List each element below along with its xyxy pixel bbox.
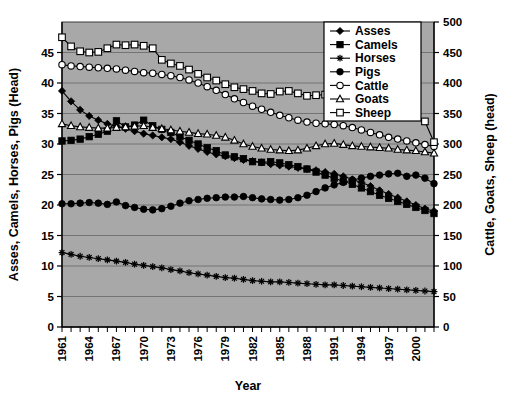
marker-open-circle: [222, 91, 228, 97]
marker-filled-circle: [86, 199, 93, 206]
marker-filled-circle: [122, 202, 129, 209]
marker-open-circle: [277, 112, 283, 118]
marker-filled-square: [195, 141, 201, 147]
y-axis-right-tick-label: 500: [443, 16, 462, 28]
livestock-line-chart: 0510152025303540450501001502002503003504…: [0, 0, 510, 398]
marker-star: [222, 274, 229, 281]
marker-filled-square: [431, 210, 437, 216]
marker-filled-circle: [140, 206, 147, 213]
marker-star: [204, 272, 211, 279]
marker-open-circle: [59, 61, 65, 67]
marker-filled-circle: [68, 200, 75, 207]
x-axis-tick-label: 1964: [83, 335, 95, 361]
marker-star: [422, 288, 429, 295]
marker-star: [122, 259, 129, 266]
marker-open-circle: [140, 69, 146, 75]
marker-filled-circle: [186, 197, 193, 204]
marker-filled-circle: [367, 173, 374, 180]
y-axis-right-tick-label: 250: [443, 169, 462, 181]
marker-open-circle: [358, 127, 364, 133]
marker-star: [95, 255, 102, 262]
marker-filled-circle: [413, 172, 420, 179]
marker-open-circle: [385, 134, 391, 140]
marker-filled-circle: [267, 196, 274, 203]
marker-filled-square: [337, 41, 343, 47]
marker-filled-circle: [240, 193, 247, 200]
marker-star: [113, 258, 120, 265]
marker-open-circle: [413, 140, 419, 146]
marker-filled-square: [186, 137, 192, 143]
marker-open-circle: [322, 121, 328, 127]
marker-open-circle: [395, 136, 401, 142]
legend-item-label: Pigs: [355, 65, 381, 79]
marker-open-square: [77, 48, 84, 55]
marker-filled-circle: [213, 194, 220, 201]
marker-open-square: [213, 77, 220, 84]
marker-filled-circle: [276, 197, 283, 204]
x-axis-tick-label: 2000: [410, 336, 422, 362]
marker-filled-square: [222, 152, 228, 158]
x-axis-tick-label: 1973: [165, 336, 177, 362]
marker-filled-square: [213, 148, 219, 154]
marker-star: [195, 271, 202, 278]
marker-star: [331, 282, 338, 289]
marker-open-circle: [131, 68, 137, 74]
marker-filled-circle: [104, 201, 111, 208]
x-axis-tick-label: 1994: [355, 335, 367, 361]
marker-star: [385, 285, 392, 292]
marker-open-circle: [104, 65, 110, 71]
x-axis-tick-label: 1997: [383, 336, 395, 362]
y-axis-left-tick-label: 20: [41, 199, 54, 211]
marker-filled-circle: [337, 69, 344, 76]
marker-open-circle: [404, 138, 410, 144]
marker-open-circle: [113, 66, 119, 72]
marker-open-square: [222, 81, 229, 88]
marker-open-square: [68, 43, 75, 50]
marker-star: [394, 286, 401, 293]
marker-filled-circle: [431, 180, 438, 187]
marker-filled-circle: [177, 200, 184, 207]
y-axis-left-title: Asses, Camels, Horses, Pigs (Head): [7, 68, 21, 281]
marker-open-square: [431, 139, 438, 146]
legend-item-label: Cattle: [355, 79, 389, 93]
marker-star: [59, 249, 66, 256]
marker-open-square: [267, 91, 274, 98]
marker-filled-circle: [403, 173, 410, 180]
marker-star: [340, 282, 347, 289]
marker-filled-circle: [422, 175, 429, 182]
marker-open-circle: [304, 119, 310, 125]
x-axis-tick-label: 1988: [301, 335, 313, 361]
marker-filled-circle: [113, 199, 120, 206]
marker-filled-circle: [349, 177, 356, 184]
marker-star: [376, 285, 383, 292]
marker-filled-square: [258, 159, 264, 165]
marker-open-square: [422, 118, 429, 125]
x-axis-tick-label: 1979: [219, 336, 231, 362]
y-axis-left-tick-label: 5: [48, 291, 55, 303]
marker-open-circle: [177, 74, 183, 80]
marker-open-square: [159, 57, 166, 64]
marker-open-square: [168, 60, 175, 67]
x-axis-tick-label: 1970: [138, 336, 150, 362]
marker-star: [104, 257, 111, 264]
marker-open-square: [59, 34, 66, 41]
marker-star: [322, 282, 329, 289]
marker-star: [358, 283, 365, 290]
y-axis-right-tick-label: 200: [443, 199, 462, 211]
y-axis-right-tick-label: 150: [443, 230, 462, 242]
y-axis-right-tick-label: 300: [443, 138, 462, 150]
marker-filled-circle: [286, 196, 293, 203]
marker-open-square: [131, 41, 138, 48]
marker-filled-circle: [394, 170, 401, 177]
marker-filled-circle: [249, 194, 256, 201]
x-axis-tick-label: 1982: [247, 336, 259, 362]
marker-filled-square: [267, 158, 273, 164]
marker-filled-square: [385, 195, 391, 201]
marker-open-circle: [376, 132, 382, 138]
marker-filled-circle: [258, 196, 265, 203]
marker-star: [431, 288, 438, 295]
marker-filled-circle: [358, 175, 365, 182]
marker-star: [68, 251, 75, 258]
marker-star: [276, 278, 283, 285]
y-axis-left-tick-label: 0: [48, 321, 54, 333]
